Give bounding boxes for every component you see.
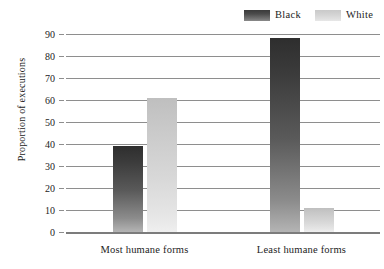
gridline <box>66 100 380 101</box>
gridline <box>66 78 380 79</box>
plot-area: 9080706050403020100Most humane formsLeas… <box>66 34 380 232</box>
gridline <box>66 56 380 57</box>
y-axis-tick <box>59 232 64 233</box>
legend-item-black: Black <box>244 10 301 21</box>
y-axis-tick <box>59 122 64 123</box>
legend-label-white: White <box>346 10 373 21</box>
chart-legend: Black White <box>244 8 373 22</box>
y-axis-tick-label: 50 <box>45 117 55 128</box>
bar-white-1 <box>147 98 177 232</box>
gridline <box>66 122 380 123</box>
y-axis-tick <box>59 78 64 79</box>
bar-black-1 <box>113 146 143 232</box>
y-axis-tick-label: 30 <box>45 161 55 172</box>
gridline <box>66 144 380 145</box>
y-axis-tick-label: 20 <box>45 183 55 194</box>
y-axis-tick-label: 10 <box>45 205 55 216</box>
y-axis-tick-label: 80 <box>45 51 55 62</box>
y-axis-tick-label: 60 <box>45 95 55 106</box>
y-axis-tick <box>59 100 64 101</box>
bar-white-2 <box>304 208 334 232</box>
y-axis-tick <box>59 166 64 167</box>
y-axis-tick <box>59 188 64 189</box>
y-axis-tick <box>59 144 64 145</box>
x-axis-baseline <box>66 232 380 234</box>
gridline <box>66 34 380 35</box>
bar-chart-figure: Black White Proportion of executions 908… <box>0 0 384 269</box>
x-axis-category-label: Least humane forms <box>257 244 346 255</box>
legend-swatch-white-icon <box>315 10 341 21</box>
y-axis-tick <box>59 34 64 35</box>
x-axis-category-label: Most humane forms <box>101 244 189 255</box>
y-axis-tick <box>59 210 64 211</box>
y-axis-tick-label: 0 <box>50 227 55 238</box>
y-axis-tick <box>59 56 64 57</box>
legend-label-black: Black <box>275 10 301 21</box>
y-axis-tick-label: 70 <box>45 73 55 84</box>
y-axis-title: Proportion of executions <box>16 25 27 195</box>
legend-item-white: White <box>315 10 373 21</box>
legend-swatch-black-icon <box>244 10 270 21</box>
y-axis-tick-label: 40 <box>45 139 55 150</box>
y-axis-tick-label: 90 <box>45 29 55 40</box>
bar-black-2 <box>270 38 300 232</box>
